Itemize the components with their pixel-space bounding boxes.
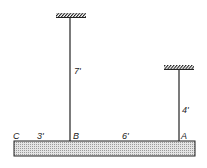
point-a-label: A bbox=[180, 131, 187, 141]
dimension-cb-label: 3' bbox=[37, 131, 44, 141]
rigid-beam bbox=[14, 141, 195, 156]
hanger-b-length-label: 7' bbox=[74, 66, 81, 76]
point-c-label: C bbox=[13, 131, 20, 141]
dimension-ba-label: 6' bbox=[122, 131, 129, 141]
point-b-label: B bbox=[73, 131, 79, 141]
hanger-a-length-label: 4' bbox=[182, 105, 189, 115]
beam-diagram: 7' 4' C 3' B 6' A bbox=[0, 0, 207, 168]
ceiling-support-a bbox=[164, 65, 194, 70]
ceiling-support-b bbox=[56, 13, 86, 18]
